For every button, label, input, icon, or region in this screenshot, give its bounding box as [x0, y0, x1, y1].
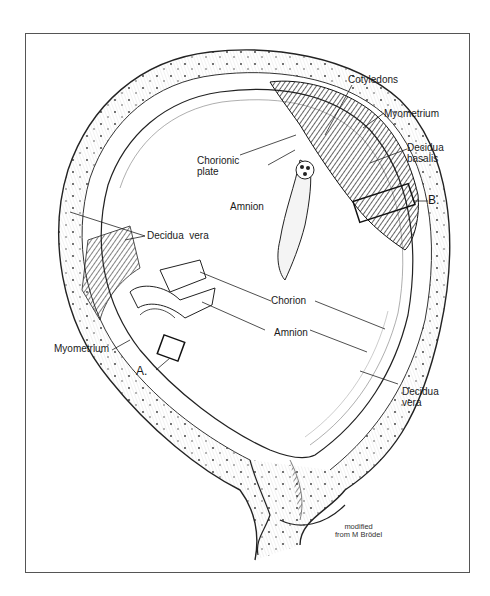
label-decidua-vera-left: Decidua vera [147, 230, 209, 241]
label-decidua-basalis-line2: basalis [407, 153, 444, 164]
label-decidua-basalis-line1: Decidua [407, 142, 444, 153]
uterus-illustration [0, 0, 490, 596]
label-decidua-vera-right-line2: vera [402, 397, 439, 408]
label-myometrium-top: Myometrium [384, 108, 439, 119]
label-decidua-basalis: Decidua basalis [407, 142, 444, 164]
label-decidua-vera-right: Decidua vera [402, 386, 439, 408]
label-chorionic-plate: Chorionic plate [197, 155, 239, 177]
credit-line2: from M Brödel [335, 531, 382, 539]
label-chorionic-plate-line2: plate [197, 166, 239, 177]
credit-caption: modified from M Brödel [335, 523, 382, 539]
label-box-b: B. [428, 195, 439, 206]
label-myometrium-left: Myometrium [54, 343, 109, 354]
label-amnion-top: Amnion [230, 201, 264, 212]
label-chorion: Chorion [271, 295, 306, 306]
label-chorionic-plate-line1: Chorionic [197, 155, 239, 166]
label-decidua-vera-right-line1: Decidua [402, 386, 439, 397]
label-amnion-mid: Amnion [274, 327, 308, 338]
label-cotyledons: Cotyledons [348, 74, 398, 85]
label-box-a: A. [136, 366, 147, 377]
